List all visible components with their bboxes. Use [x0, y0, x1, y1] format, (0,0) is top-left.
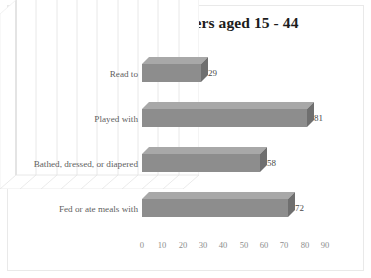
x-tick-10: 10 [152, 240, 172, 250]
x-tick-90: 90 [315, 240, 335, 250]
x-tick-30: 30 [193, 240, 213, 250]
bar-value-played-with: 81 [314, 113, 323, 123]
x-tick-70: 70 [274, 240, 294, 250]
category-label-read-to: Read to [10, 69, 138, 79]
x-tick-0: 0 [132, 240, 152, 250]
category-label-played-with: Played with [10, 114, 138, 124]
bar-played-with [142, 102, 314, 127]
x-axis-tick-labels: 0 10 20 30 40 50 60 70 80 90 [130, 240, 365, 256]
category-label-fed-or-ate-meals-with: Fed or ate meals with [10, 204, 138, 214]
x-tick-80: 80 [295, 240, 315, 250]
chart-container: Percentage of fathers aged 15 - 44 [0, 0, 371, 278]
bars-layer [142, 46, 371, 235]
x-tick-50: 50 [234, 240, 254, 250]
bar-bathed-dressed-or-diapered [142, 147, 267, 172]
x-tick-20: 20 [173, 240, 193, 250]
x-tick-40: 40 [213, 240, 233, 250]
x-tick-60: 60 [254, 240, 274, 250]
bar-value-read-to: 29 [208, 68, 217, 78]
category-axis-labels: Read to Played with Bathed, dressed, or … [4, 46, 138, 235]
bar-value-fed-or-ate-meals-with: 72 [295, 203, 304, 213]
bar-read-to [142, 57, 208, 82]
bar-value-bathed-dressed-or-diapered: 58 [267, 158, 276, 168]
bar-fed-or-ate-meals-with [142, 192, 295, 217]
category-label-bathed-dressed-or-diapered: Bathed, dressed, or diapered [10, 159, 138, 169]
